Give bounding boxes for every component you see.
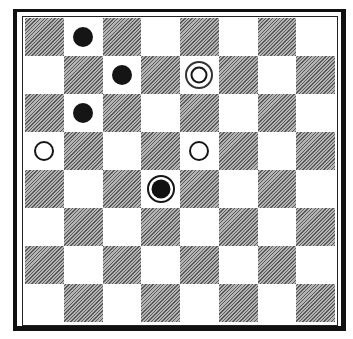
square-r1-c4[interactable] bbox=[180, 56, 219, 94]
white-piece-icon[interactable] bbox=[189, 141, 209, 161]
white-king-piece-icon[interactable] bbox=[185, 61, 213, 89]
square-r2-c1[interactable] bbox=[64, 94, 103, 132]
square-r0-c0[interactable] bbox=[25, 18, 64, 56]
square-r1-c5[interactable] bbox=[219, 56, 258, 94]
square-r2-c0[interactable] bbox=[25, 94, 64, 132]
square-r4-c4[interactable] bbox=[180, 170, 219, 208]
square-r2-c4[interactable] bbox=[180, 94, 219, 132]
black-king-piece-icon[interactable] bbox=[147, 175, 175, 203]
square-r5-c4[interactable] bbox=[180, 208, 219, 246]
square-r6-c1[interactable] bbox=[64, 246, 103, 284]
square-r6-c3[interactable] bbox=[141, 246, 180, 284]
square-r0-c6[interactable] bbox=[258, 18, 297, 56]
square-r7-c5[interactable] bbox=[219, 284, 258, 322]
square-r5-c5[interactable] bbox=[219, 208, 258, 246]
square-r1-c7[interactable] bbox=[296, 56, 335, 94]
square-r7-c0[interactable] bbox=[25, 284, 64, 322]
square-r3-c3[interactable] bbox=[141, 132, 180, 170]
square-r3-c6[interactable] bbox=[258, 132, 297, 170]
square-r6-c0[interactable] bbox=[25, 246, 64, 284]
square-r4-c0[interactable] bbox=[25, 170, 64, 208]
square-r7-c1[interactable] bbox=[64, 284, 103, 322]
square-r7-c4[interactable] bbox=[180, 284, 219, 322]
square-r5-c3[interactable] bbox=[141, 208, 180, 246]
square-r5-c6[interactable] bbox=[258, 208, 297, 246]
square-r2-c7[interactable] bbox=[296, 94, 335, 132]
square-r2-c6[interactable] bbox=[258, 94, 297, 132]
white-piece-icon[interactable] bbox=[34, 141, 54, 161]
square-r6-c6[interactable] bbox=[258, 246, 297, 284]
square-r0-c1[interactable] bbox=[64, 18, 103, 56]
square-r7-c7[interactable] bbox=[296, 284, 335, 322]
checkers-board bbox=[25, 18, 335, 322]
square-r3-c0[interactable] bbox=[25, 132, 64, 170]
square-r3-c5[interactable] bbox=[219, 132, 258, 170]
square-r4-c5[interactable] bbox=[219, 170, 258, 208]
square-r3-c1[interactable] bbox=[64, 132, 103, 170]
square-r4-c1[interactable] bbox=[64, 170, 103, 208]
square-r6-c7[interactable] bbox=[296, 246, 335, 284]
black-piece-icon[interactable] bbox=[73, 27, 93, 47]
square-r1-c6[interactable] bbox=[258, 56, 297, 94]
square-r4-c6[interactable] bbox=[258, 170, 297, 208]
square-r5-c1[interactable] bbox=[64, 208, 103, 246]
square-r0-c7[interactable] bbox=[296, 18, 335, 56]
square-r1-c1[interactable] bbox=[64, 56, 103, 94]
square-r7-c3[interactable] bbox=[141, 284, 180, 322]
square-r4-c3[interactable] bbox=[141, 170, 180, 208]
square-r5-c0[interactable] bbox=[25, 208, 64, 246]
black-piece-icon[interactable] bbox=[112, 65, 132, 85]
square-r0-c4[interactable] bbox=[180, 18, 219, 56]
square-r6-c4[interactable] bbox=[180, 246, 219, 284]
square-r7-c6[interactable] bbox=[258, 284, 297, 322]
square-r0-c5[interactable] bbox=[219, 18, 258, 56]
square-r7-c2[interactable] bbox=[103, 284, 142, 322]
square-r1-c2[interactable] bbox=[103, 56, 142, 94]
square-r0-c2[interactable] bbox=[103, 18, 142, 56]
square-r3-c4[interactable] bbox=[180, 132, 219, 170]
black-piece-icon[interactable] bbox=[73, 103, 93, 123]
square-r5-c7[interactable] bbox=[296, 208, 335, 246]
square-r4-c7[interactable] bbox=[296, 170, 335, 208]
square-r2-c3[interactable] bbox=[141, 94, 180, 132]
square-r6-c5[interactable] bbox=[219, 246, 258, 284]
square-r2-c5[interactable] bbox=[219, 94, 258, 132]
square-r4-c2[interactable] bbox=[103, 170, 142, 208]
square-r6-c2[interactable] bbox=[103, 246, 142, 284]
square-r3-c2[interactable] bbox=[103, 132, 142, 170]
square-r3-c7[interactable] bbox=[296, 132, 335, 170]
square-r5-c2[interactable] bbox=[103, 208, 142, 246]
square-r2-c2[interactable] bbox=[103, 94, 142, 132]
square-r1-c3[interactable] bbox=[141, 56, 180, 94]
square-r1-c0[interactable] bbox=[25, 56, 64, 94]
square-r0-c3[interactable] bbox=[141, 18, 180, 56]
